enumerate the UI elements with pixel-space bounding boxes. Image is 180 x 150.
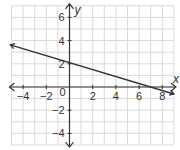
y-tick-label: 4 [58,35,64,47]
x-axis-label: x [172,72,180,86]
coordinate-plane: −4−22468−4−2246 x y 0 [0,0,180,150]
origin-label: 0 [59,86,65,98]
x-tick-label: −4 [17,90,30,102]
x-tick-label: 6 [136,90,142,102]
y-tick-label: −2 [52,104,65,116]
y-tick-label: 6 [58,11,64,23]
grid [12,6,174,145]
x-tick-label: 4 [113,90,119,102]
x-tick-label: −2 [40,90,53,102]
x-tick-label: 2 [90,90,96,102]
y-axis-label: y [74,3,82,17]
y-tick-label: −4 [52,127,65,139]
